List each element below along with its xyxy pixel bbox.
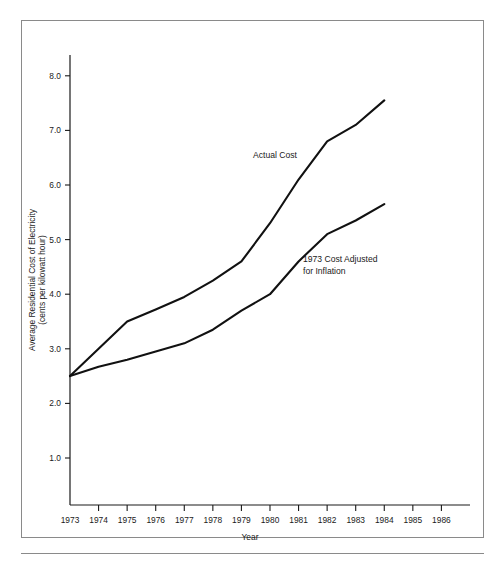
x-tick-label: 1973 — [61, 515, 80, 525]
x-tick-label: 1975 — [118, 515, 137, 525]
x-tick-label: 1986 — [432, 515, 451, 525]
x-tick-label: 1983 — [346, 515, 365, 525]
x-tick-label: 1979 — [232, 515, 251, 525]
x-tick-label: 1980 — [261, 515, 280, 525]
chart-svg: 1.02.03.04.05.06.07.08.0 197319741975197… — [0, 0, 498, 567]
y-axis-title-line2: (cents per kilowatt hour) — [37, 235, 47, 325]
y-tick-label: 3.0 — [49, 344, 61, 354]
x-tick-label: 1981 — [289, 515, 308, 525]
x-tick-label: 1984 — [375, 515, 394, 525]
x-tick-label: 1977 — [175, 515, 194, 525]
annotation-inflation-line1: 1973 Cost Adjusted — [303, 254, 378, 264]
y-tick-label: 4.0 — [49, 289, 61, 299]
x-tick-group: 1973197419751976197719781979198019811982… — [61, 505, 451, 525]
y-tick-label: 5.0 — [49, 235, 61, 245]
axis-group — [70, 55, 470, 505]
series-line-inflation-adjusted — [70, 204, 384, 376]
page-root: 1.02.03.04.05.06.07.08.0 197319741975197… — [0, 0, 498, 567]
x-tick-label: 1978 — [204, 515, 223, 525]
x-axis-title: Year — [242, 532, 259, 542]
line-chart: 1.02.03.04.05.06.07.08.0 197319741975197… — [0, 0, 498, 567]
y-tick-group: 1.02.03.04.05.06.07.08.0 — [49, 71, 70, 463]
x-tick-label: 1976 — [146, 515, 165, 525]
y-tick-label: 7.0 — [49, 125, 61, 135]
series-group — [70, 100, 384, 376]
x-tick-label: 1974 — [89, 515, 108, 525]
annotation-actual-cost: Actual Cost — [253, 150, 298, 160]
y-tick-label: 8.0 — [49, 71, 61, 81]
y-tick-label: 6.0 — [49, 180, 61, 190]
y-tick-label: 2.0 — [49, 398, 61, 408]
y-axis-title-line1: Average Residential Cost of Electricity — [27, 208, 37, 351]
y-tick-label: 1.0 — [49, 453, 61, 463]
series-line-actual-cost — [70, 100, 384, 376]
x-tick-label: 1985 — [404, 515, 423, 525]
x-tick-label: 1982 — [318, 515, 337, 525]
annotation-inflation-line2: for Inflation — [303, 266, 346, 276]
